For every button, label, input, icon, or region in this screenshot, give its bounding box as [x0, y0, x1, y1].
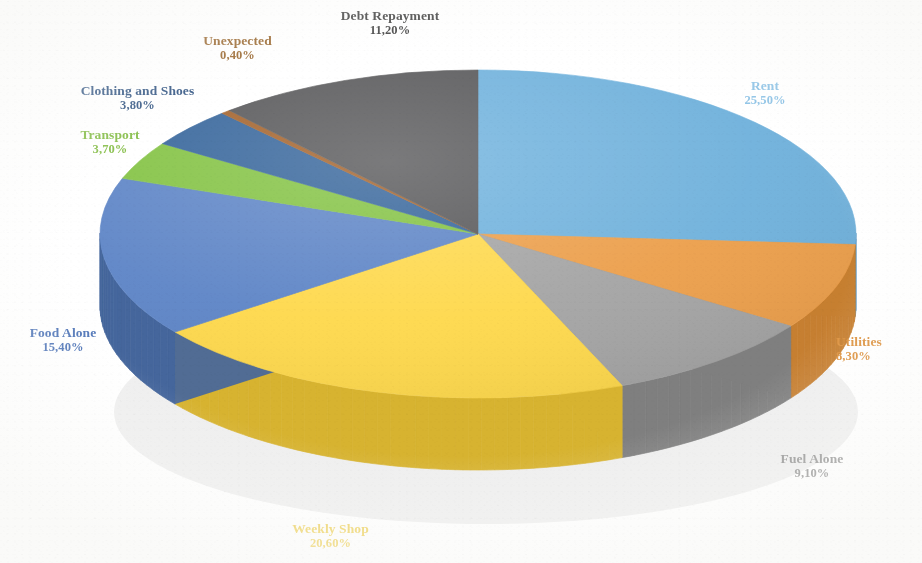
slice-label-percent: 25,50%	[705, 93, 825, 107]
pie-slice-tops	[100, 70, 856, 398]
slice-label-percent: 20,60%	[248, 536, 413, 550]
slice-label-percent: 9,10%	[742, 466, 882, 480]
slice-label-food-alone: Food Alone 15,40%	[0, 325, 128, 354]
slice-label-name: Utilities	[836, 334, 922, 349]
slice-label-percent: 3,70%	[25, 142, 195, 156]
slice-label-percent: 15,40%	[0, 340, 128, 354]
slice-label-utilities: Utilities 8,30%	[836, 334, 922, 363]
slice-label-unexpected: Unexpected 0,40%	[150, 33, 325, 62]
slice-label-name: Rent	[705, 78, 825, 93]
slice-label-debt-repayment: Debt Repayment 11,20%	[300, 8, 480, 37]
slice-label-percent: 11,20%	[300, 23, 480, 37]
slice-label-name: Clothing and Shoes	[45, 83, 230, 98]
slice-label-percent: 8,30%	[836, 349, 922, 363]
slice-label-name: Weekly Shop	[248, 521, 413, 536]
slice-label-weekly-shop: Weekly Shop 20,60%	[248, 521, 413, 550]
slice-label-fuel-alone: Fuel Alone 9,10%	[742, 451, 882, 480]
slice-label-percent: 3,80%	[45, 98, 230, 112]
slice-label-name: Debt Repayment	[300, 8, 480, 23]
pie-chart: Debt Repayment 11,20% Unexpected 0,40% C…	[0, 0, 922, 563]
slice-label-rent: Rent 25,50%	[705, 78, 825, 107]
slice-label-name: Food Alone	[0, 325, 128, 340]
slice-label-clothing-and-shoes: Clothing and Shoes 3,80%	[45, 83, 230, 112]
slice-label-transport: Transport 3,70%	[25, 127, 195, 156]
slice-label-percent: 0,40%	[150, 48, 325, 62]
slice-label-name: Unexpected	[150, 33, 325, 48]
slice-label-name: Transport	[25, 127, 195, 142]
slice-label-name: Fuel Alone	[742, 451, 882, 466]
